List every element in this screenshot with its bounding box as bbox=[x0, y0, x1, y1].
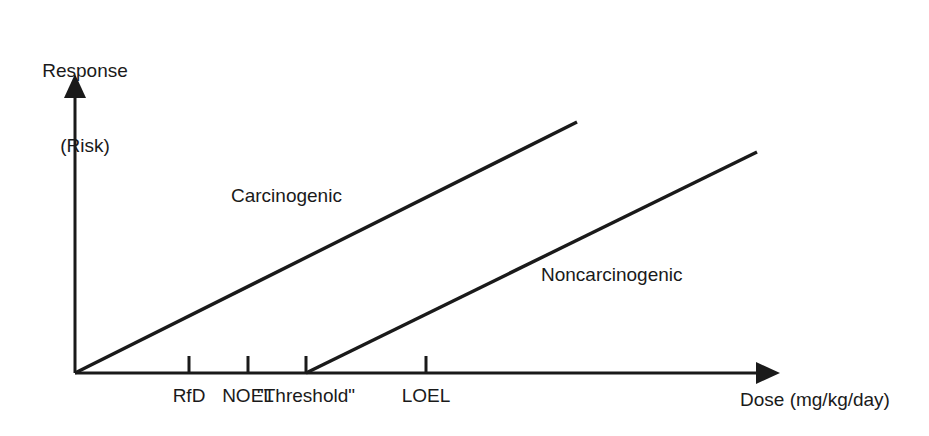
x-axis-title: Dose (mg/kg/day) bbox=[740, 387, 890, 412]
y-axis-title-line1: Response bbox=[10, 58, 160, 83]
x-tick-label-loel: LOEL bbox=[391, 385, 461, 407]
dose-response-chart: Response (Risk) Carcinogenic Noncarcinog… bbox=[0, 0, 929, 436]
series-label-noncarcinogenic: Noncarcinogenic bbox=[541, 264, 683, 286]
x-tick-label-threshold: "Threshold" bbox=[246, 385, 366, 407]
x-tick-label-rfd: RfD bbox=[159, 385, 219, 407]
y-axis-title-line2: (Risk) bbox=[10, 133, 160, 158]
x-axis-arrow-icon bbox=[756, 362, 780, 384]
series-label-carcinogenic: Carcinogenic bbox=[231, 185, 342, 207]
series-line-noncarcinogenic bbox=[306, 152, 757, 373]
y-axis-title: Response (Risk) bbox=[10, 8, 160, 208]
